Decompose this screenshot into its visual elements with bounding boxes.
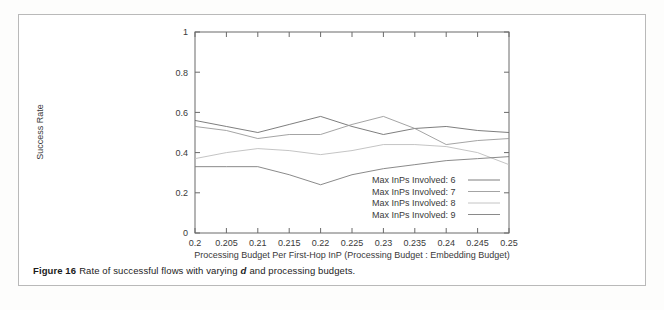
x-tick-label: 0.215 xyxy=(278,238,301,248)
legend-label: Max InPs Involved: 6 xyxy=(372,175,456,185)
x-tick-label: 0.25 xyxy=(500,238,518,248)
x-tick-label: 0.21 xyxy=(249,238,267,248)
y-tick-label: 0 xyxy=(183,228,188,238)
page-canvas: 00.20.40.60.81 0.20.2050.210.2150.220.22… xyxy=(0,0,664,310)
legend-label: Max InPs Involved: 9 xyxy=(372,210,456,220)
x-axis-ticks: 0.20.2050.210.2150.220.2250.230.2350.240… xyxy=(189,32,518,248)
data-line xyxy=(195,116,509,134)
y-tick-label: 1 xyxy=(183,27,188,37)
x-axis-title: Processing Budget Per First-Hop InP (Pro… xyxy=(194,250,510,260)
x-tick-label: 0.245 xyxy=(466,238,489,248)
legend-label: Max InPs Involved: 8 xyxy=(372,198,456,208)
data-line xyxy=(195,157,509,185)
y-axis-title: Success Rate xyxy=(35,104,45,160)
figure-chart-area: 00.20.40.60.81 0.20.2050.210.2150.220.22… xyxy=(19,15,647,263)
caption-text-before: Rate of successful flows with varying xyxy=(79,265,237,276)
x-tick-label: 0.205 xyxy=(215,238,238,248)
figure-frame: 00.20.40.60.81 0.20.2050.210.2150.220.22… xyxy=(18,14,646,286)
caption-text-after: and processing budgets. xyxy=(249,265,355,276)
y-axis-ticks: 00.20.40.60.81 xyxy=(175,27,509,238)
x-tick-label: 0.235 xyxy=(404,238,427,248)
y-tick-label: 0.4 xyxy=(175,148,188,158)
caption-figure-label: Figure 16 xyxy=(33,265,76,276)
x-tick-label: 0.2 xyxy=(189,238,202,248)
data-line xyxy=(195,116,509,144)
caption-italic-variable: d xyxy=(241,265,247,276)
y-tick-label: 0.6 xyxy=(175,108,188,118)
figure-caption: Figure 16Rate of successful flows with v… xyxy=(33,265,633,276)
x-tick-label: 0.225 xyxy=(341,238,364,248)
plot-border xyxy=(195,32,509,233)
y-tick-label: 0.8 xyxy=(175,68,188,78)
data-series-layer xyxy=(195,116,509,184)
y-tick-label: 0.2 xyxy=(175,188,188,198)
data-line xyxy=(195,145,509,165)
chart-legend: Max InPs Involved: 6Max InPs Involved: 7… xyxy=(372,175,500,220)
x-tick-label: 0.24 xyxy=(437,238,455,248)
x-tick-label: 0.23 xyxy=(375,238,393,248)
legend-label: Max InPs Involved: 7 xyxy=(372,187,456,197)
x-tick-label: 0.22 xyxy=(312,238,330,248)
line-chart: 00.20.40.60.81 0.20.2050.210.2150.220.22… xyxy=(19,15,647,263)
